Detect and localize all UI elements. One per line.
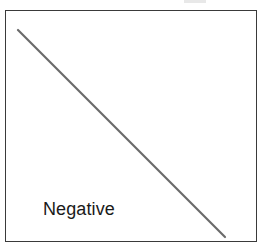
negative-trend-line <box>0 0 261 246</box>
panel-label: Negative <box>43 199 115 220</box>
